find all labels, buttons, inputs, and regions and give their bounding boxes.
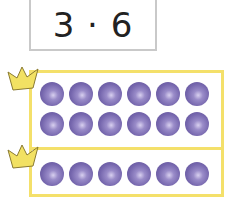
dot (185, 82, 209, 106)
dot (127, 162, 151, 186)
crown-icon (5, 64, 41, 92)
dot (40, 112, 64, 136)
dot-row-3 (40, 162, 209, 186)
dot (127, 82, 151, 106)
crown-icon (5, 142, 41, 170)
dot (185, 162, 209, 186)
dot-row-2 (40, 112, 209, 136)
dot (69, 82, 93, 106)
dot (98, 112, 122, 136)
dot (156, 82, 180, 106)
dot (156, 162, 180, 186)
dot (40, 82, 64, 106)
dot (185, 112, 209, 136)
dot (98, 162, 122, 186)
frame-divider (29, 147, 224, 150)
dot-row-1 (40, 82, 209, 106)
dot (156, 112, 180, 136)
dot (69, 112, 93, 136)
expression-box: 3 · 6 (29, 0, 157, 51)
dot (127, 112, 151, 136)
expression-text: 3 · 6 (53, 8, 134, 42)
dot (69, 162, 93, 186)
dot (98, 82, 122, 106)
dot (40, 162, 64, 186)
